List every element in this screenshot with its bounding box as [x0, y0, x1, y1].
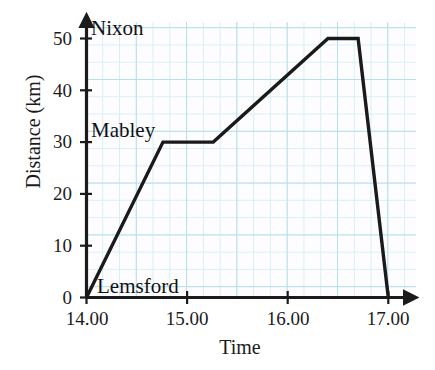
y-tick-label-0: 0 — [32, 288, 72, 307]
x-tick-label-1600: 16.00 — [248, 309, 328, 328]
x-tick-label-1500: 15.00 — [147, 309, 227, 328]
y-axis-title: Distance (km) — [22, 32, 45, 232]
journey-line-series — [87, 39, 389, 298]
x-tick-label-1700: 17.00 — [348, 309, 428, 328]
chart-figure: 0 10 20 30 40 50 14.00 15.00 16.00 17.00… — [0, 0, 435, 370]
x-axis-title: Time — [180, 336, 300, 359]
y-tick-label-10: 10 — [32, 236, 72, 255]
annotation-lemsford: Lemsford — [97, 276, 179, 297]
x-tick-label-1400: 14.00 — [47, 309, 127, 328]
annotation-nixon: Nixon — [91, 18, 144, 39]
annotation-mabley: Mabley — [91, 120, 155, 141]
